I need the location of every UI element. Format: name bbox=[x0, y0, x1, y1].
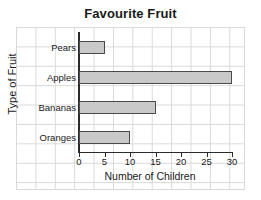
y-tick-label: Pears bbox=[51, 41, 76, 54]
bar-apples bbox=[79, 71, 232, 84]
chart-figure: Favourite Fruit PearsApplesBananasOrange… bbox=[0, 0, 261, 200]
y-tick-label: Oranges bbox=[40, 131, 76, 144]
plot-area: PearsApplesBananasOranges bbox=[79, 32, 232, 152]
x-tick-label: 10 bbox=[125, 156, 136, 167]
x-axis-title: Number of Children bbox=[60, 170, 240, 182]
bar-group: Bananas bbox=[79, 101, 156, 114]
x-tick-label: 5 bbox=[102, 156, 107, 167]
bar-pears bbox=[79, 41, 105, 54]
x-tick-label: 20 bbox=[176, 156, 187, 167]
y-tick-label: Apples bbox=[47, 71, 76, 84]
bar-group: Oranges bbox=[79, 131, 130, 144]
x-tick-label: 15 bbox=[150, 156, 161, 167]
bar-bananas bbox=[79, 101, 156, 114]
x-tick-label: 25 bbox=[201, 156, 212, 167]
y-tick-label: Bananas bbox=[38, 101, 76, 114]
y-axis-title: Type of Fruit bbox=[6, 36, 18, 132]
x-tick-label: 0 bbox=[76, 156, 81, 167]
bar-oranges bbox=[79, 131, 130, 144]
bar-group: Apples bbox=[79, 71, 232, 84]
bar-group: Pears bbox=[79, 41, 105, 54]
x-tick-label: 30 bbox=[227, 156, 238, 167]
chart-title: Favourite Fruit bbox=[0, 6, 261, 21]
